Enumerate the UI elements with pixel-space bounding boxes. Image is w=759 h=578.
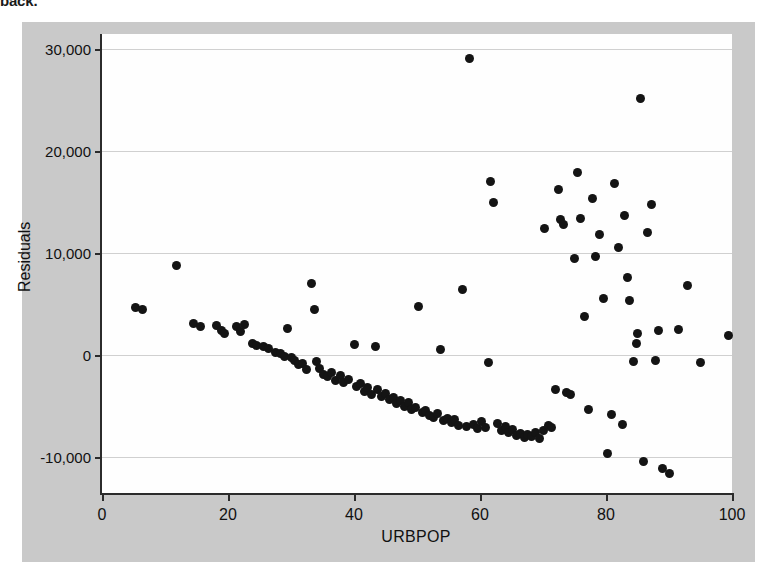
- data-point: [651, 356, 660, 365]
- x-axis-tick: [354, 493, 356, 501]
- x-axis-tick: [606, 493, 608, 501]
- data-point: [588, 194, 597, 203]
- data-point: [607, 410, 616, 419]
- gridline-y: [102, 49, 732, 50]
- x-axis-tick: [102, 493, 104, 501]
- data-point: [633, 329, 642, 338]
- gridline-y: [102, 151, 732, 152]
- data-point: [625, 296, 634, 305]
- x-axis-tick-label: 40: [345, 506, 363, 524]
- data-point: [307, 279, 316, 288]
- data-point: [696, 358, 705, 367]
- x-axis-tick-label: 20: [219, 506, 237, 524]
- data-point: [547, 423, 556, 432]
- data-point: [220, 329, 229, 338]
- data-point: [610, 179, 619, 188]
- gridline-y: [102, 355, 732, 356]
- gridline-y: [102, 457, 732, 458]
- data-point: [559, 220, 568, 229]
- data-point: [665, 469, 674, 478]
- y-axis-tick-label: 10,000: [45, 245, 91, 262]
- x-axis-title: URBPOP: [100, 528, 732, 546]
- data-point: [138, 305, 147, 314]
- data-point: [570, 254, 579, 263]
- data-point: [636, 94, 645, 103]
- x-axis-tick-label: 80: [597, 506, 615, 524]
- data-point: [647, 200, 656, 209]
- data-point: [371, 342, 380, 351]
- data-point: [554, 185, 563, 194]
- y-axis-tick: [95, 253, 102, 255]
- y-axis-tick-label: 20,000: [45, 143, 91, 160]
- chart-figure: Residuals URBPOP -10,000010,00020,00030,…: [22, 22, 755, 562]
- y-axis-tick: [95, 151, 102, 153]
- gridline-y: [102, 253, 732, 254]
- data-point: [643, 228, 652, 237]
- data-point: [350, 340, 359, 349]
- data-point: [683, 281, 692, 290]
- data-point: [436, 345, 445, 354]
- data-point: [599, 294, 608, 303]
- data-point: [310, 305, 319, 314]
- data-point: [283, 324, 292, 333]
- data-point: [489, 198, 498, 207]
- data-point: [614, 243, 623, 252]
- data-point: [172, 261, 181, 270]
- y-axis-tick-label: -10,000: [40, 449, 91, 466]
- data-point: [576, 214, 585, 223]
- y-axis-tick-label: 30,000: [45, 41, 91, 58]
- data-point: [584, 405, 593, 414]
- y-axis-tick-label: 0: [83, 347, 91, 364]
- x-axis-tick: [732, 493, 734, 501]
- data-point: [414, 302, 423, 311]
- data-point: [484, 358, 493, 367]
- y-axis-title: Residuals: [16, 222, 34, 292]
- x-axis-tick: [480, 493, 482, 501]
- data-point: [674, 325, 683, 334]
- data-point: [344, 375, 353, 384]
- x-axis-tick-label: 60: [471, 506, 489, 524]
- x-axis-tick-label: 100: [719, 506, 746, 524]
- data-point: [623, 273, 632, 282]
- data-point: [540, 224, 549, 233]
- data-point: [535, 434, 544, 443]
- data-point: [481, 423, 490, 432]
- data-point: [639, 457, 648, 466]
- data-point: [618, 420, 627, 429]
- data-point: [465, 54, 474, 63]
- data-point: [302, 365, 311, 374]
- y-axis-tick: [95, 457, 102, 459]
- data-point: [486, 177, 495, 186]
- data-point: [591, 252, 600, 261]
- data-point: [595, 230, 604, 239]
- data-point: [458, 285, 467, 294]
- x-axis-tick-label: 0: [98, 506, 107, 524]
- x-axis-tick: [228, 493, 230, 501]
- data-point: [654, 326, 663, 335]
- cropped-page-text: back.: [0, 0, 120, 8]
- data-point: [240, 320, 249, 329]
- figure-page: back. Residuals URBPOP -10,000010,00020,…: [0, 0, 759, 578]
- data-point: [580, 312, 589, 321]
- y-axis-tick: [95, 355, 102, 357]
- data-point: [603, 449, 612, 458]
- y-axis-tick: [95, 49, 102, 51]
- scatter-plot-area: -10,000010,00020,00030,000 020406080100: [100, 34, 732, 495]
- data-point: [620, 211, 629, 220]
- data-point: [724, 331, 733, 340]
- data-point: [566, 390, 575, 399]
- data-point: [629, 357, 638, 366]
- data-point: [551, 385, 560, 394]
- data-point: [573, 168, 582, 177]
- data-point: [632, 339, 641, 348]
- data-point: [196, 322, 205, 331]
